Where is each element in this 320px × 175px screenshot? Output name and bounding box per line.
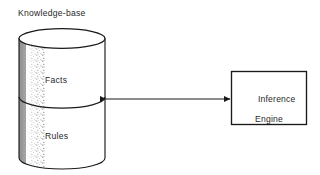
inference-engine-rect [232,72,307,125]
knowledge-base-cylinder[interactable] [19,29,105,170]
cylinder-top-ellipse [19,29,105,49]
cylinder-left-shading [19,38,45,170]
inference-engine-box[interactable] [232,72,307,125]
diagram-canvas: Knowledge-base Facts Rules Inference Eng… [0,0,320,175]
diagram-vector-layer [0,0,320,175]
